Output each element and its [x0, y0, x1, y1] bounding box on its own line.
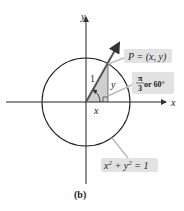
unit-circle-diagram: P = (x, y) π 3 or 60° x2 + y2 = 1 y x 1 … — [0, 0, 184, 211]
y-axis-label: y — [80, 11, 86, 22]
caption: (b) — [74, 189, 86, 201]
leg-y-label: y — [110, 79, 116, 90]
angle-denominator: 3 — [138, 84, 142, 93]
hypotenuse-label: 1 — [90, 73, 95, 84]
angle-degrees: or 60° — [144, 80, 165, 89]
callout-leader-equation — [112, 138, 128, 158]
x-axis-label: x — [170, 97, 176, 108]
angle-numerator: π — [138, 74, 143, 83]
leg-x-label: x — [93, 105, 99, 116]
point-label: P = (x, y) — [127, 51, 167, 63]
